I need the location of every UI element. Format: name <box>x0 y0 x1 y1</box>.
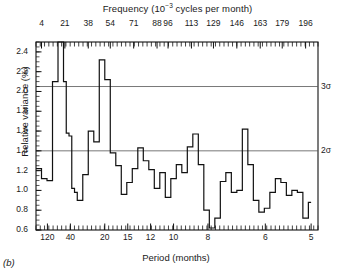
top-axis-title-tail: cycles per month) <box>173 3 252 14</box>
y-axis-tick-label: 0.6 <box>0 224 28 234</box>
top-axis-title-text: Frequency (10 <box>103 3 166 14</box>
plot-frame <box>36 42 318 230</box>
reference-line-label-2sigma: 2σ <box>321 145 331 155</box>
top-axis-tick-label: 196 <box>292 18 320 28</box>
bottom-axis-tick-label: 8 <box>194 232 222 242</box>
bottom-axis-tick-label: 10 <box>160 232 188 242</box>
y-axis-ticks <box>36 42 42 230</box>
bottom-axis-ticks <box>36 224 318 231</box>
y-axis-tick-label: 1.4 <box>0 145 28 155</box>
panel-label: (b) <box>3 257 15 268</box>
top-axis-title: Frequency (10−3 cycles per month) <box>0 2 355 14</box>
x-axis-title: Period (months) <box>36 252 316 263</box>
y-axis-tick-label: 2.0 <box>0 85 28 95</box>
figure-panel-b: Frequency (10−3 cycles per month) Relati… <box>0 0 355 276</box>
y-axis-tick-label: 1.2 <box>0 165 28 175</box>
bottom-axis-tick-label: 40 <box>56 232 84 242</box>
y-axis-tick-label: 0.8 <box>0 204 28 214</box>
top-axis-title-exponent: −3 <box>165 2 173 9</box>
bottom-axis-tick-label: 6 <box>251 232 279 242</box>
reference-lines <box>36 87 318 151</box>
data-series-line <box>36 42 311 228</box>
y-axis-tick-label: 1.0 <box>0 184 28 194</box>
bottom-axis-tick-label: 5 <box>297 232 325 242</box>
y-axis-tick-label: 2.2 <box>0 66 28 76</box>
top-axis-ticks <box>36 42 318 49</box>
reference-line-label-3sigma: 3σ <box>321 81 331 91</box>
y-axis-tick-label: 1.6 <box>0 125 28 135</box>
y-axis-tick-label: 2.4 <box>0 46 28 56</box>
y-axis-tick-label: 1.8 <box>0 105 28 115</box>
